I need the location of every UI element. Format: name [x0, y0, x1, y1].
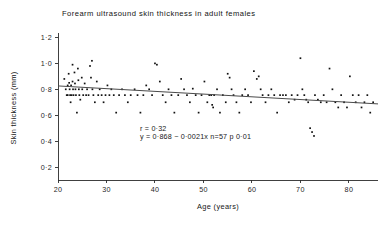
data-point: [145, 85, 147, 87]
data-point: [142, 94, 144, 96]
data-point: [358, 94, 360, 96]
data-point: [212, 107, 214, 109]
data-point: [156, 64, 158, 66]
data-point: [250, 101, 252, 103]
regression-annotation: y = 0·868 − 0·0021x n=57 p 0·01: [140, 132, 251, 141]
data-point: [72, 88, 74, 90]
data-point: [73, 94, 75, 96]
data-point: [105, 94, 107, 96]
data-point: [75, 94, 77, 96]
data-point: [82, 94, 84, 96]
data-point: [137, 94, 139, 96]
data-point: [69, 88, 71, 90]
data-point: [276, 112, 278, 114]
data-point: [262, 94, 264, 96]
data-point: [227, 73, 229, 75]
data-point: [361, 107, 363, 109]
data-point: [273, 94, 275, 96]
data-point: [107, 85, 109, 87]
data-point: [307, 101, 309, 103]
data-point: [96, 81, 98, 83]
data-point: [279, 94, 281, 96]
x-tick-label: 60: [248, 185, 257, 194]
data-point: [369, 112, 371, 114]
y-tick-label: 1·0: [41, 59, 52, 68]
data-point: [302, 88, 304, 90]
data-point: [340, 94, 342, 96]
data-point: [309, 127, 311, 129]
data-point: [159, 81, 161, 83]
data-point: [72, 81, 74, 83]
data-point: [76, 112, 78, 114]
data-point: [70, 101, 72, 103]
data-point: [253, 70, 255, 72]
data-point: [260, 88, 262, 90]
data-point: [241, 94, 243, 96]
data-point: [78, 79, 80, 81]
data-point: [311, 131, 313, 133]
data-point: [63, 78, 65, 80]
data-point: [320, 101, 322, 103]
data-point: [288, 101, 290, 103]
data-point: [352, 94, 354, 96]
data-point: [346, 107, 348, 109]
data-point: [86, 88, 88, 90]
data-point: [103, 101, 105, 103]
data-point: [92, 88, 94, 90]
data-point: [140, 112, 142, 114]
data-point: [78, 94, 80, 96]
data-point: [219, 112, 221, 114]
y-tick-label: 0·2: [41, 163, 52, 172]
data-point: [124, 94, 126, 96]
data-point: [225, 101, 227, 103]
data-point: [337, 107, 339, 109]
data-point: [151, 94, 153, 96]
data-point: [154, 63, 156, 65]
data-point: [78, 88, 80, 90]
x-tick-label: 40: [151, 185, 160, 194]
data-point: [326, 101, 328, 103]
y-tick-label: 0·8: [41, 85, 52, 94]
data-point: [118, 94, 120, 96]
data-point: [323, 94, 325, 96]
data-point: [268, 94, 270, 96]
data-point: [79, 99, 81, 101]
data-point: [313, 135, 315, 137]
data-point: [329, 68, 331, 70]
data-point: [244, 88, 246, 90]
data-point: [231, 88, 233, 90]
y-axis-title: Skin thickness (mm): [9, 71, 18, 144]
data-point: [171, 94, 173, 96]
data-point: [291, 94, 293, 96]
data-point: [68, 82, 70, 84]
data-point: [70, 85, 72, 87]
data-point: [93, 94, 95, 96]
data-point: [206, 101, 208, 103]
data-point: [256, 78, 258, 80]
data-point: [270, 88, 272, 90]
data-point: [101, 94, 103, 96]
x-tick-label: 20: [54, 185, 63, 194]
data-point: [127, 101, 129, 103]
data-point: [366, 94, 368, 96]
data-point: [68, 73, 70, 75]
data-point: [177, 94, 179, 96]
data-point: [115, 112, 117, 114]
data-point: [94, 101, 96, 103]
data-point: [109, 94, 111, 96]
data-point: [314, 94, 316, 96]
data-point: [204, 81, 206, 83]
data-point: [84, 83, 86, 85]
data-point: [229, 77, 231, 79]
data-point: [90, 77, 92, 79]
data-point: [300, 57, 302, 59]
data-point: [236, 101, 238, 103]
data-point: [285, 94, 287, 96]
data-point: [198, 112, 200, 114]
x-tick-label: 50: [199, 185, 208, 194]
data-point: [130, 94, 132, 96]
data-point: [192, 88, 194, 90]
data-point: [91, 60, 93, 62]
data-point: [168, 88, 170, 90]
data-point: [85, 94, 87, 96]
